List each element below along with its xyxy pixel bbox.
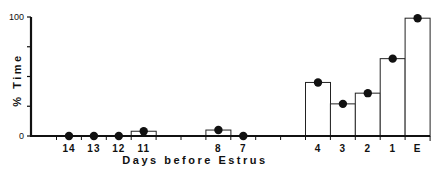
data-point: [65, 132, 73, 140]
y-axis-title: % Time: [11, 53, 23, 106]
x-tick-label: 13: [87, 143, 100, 154]
chart-container: 0100 14131211874321E % Time Days before …: [0, 0, 436, 172]
x-tick-label: 8: [215, 143, 222, 154]
data-point: [413, 14, 421, 22]
data-point: [90, 132, 98, 140]
data-point: [214, 126, 222, 134]
bar-chart: 0100 14131211874321E % Time Days before …: [0, 0, 436, 172]
x-tick-label: 7: [240, 143, 247, 154]
bar: [355, 93, 380, 136]
bar: [405, 18, 430, 136]
x-tick-label: 2: [365, 143, 372, 154]
data-point: [115, 132, 123, 140]
data-point: [314, 78, 322, 86]
x-tick-label: 3: [340, 143, 347, 154]
y-tick-label: 100: [9, 12, 24, 22]
y-tick-label: 0: [19, 131, 24, 141]
bar: [330, 104, 355, 136]
data-point: [339, 100, 347, 108]
data-point: [389, 54, 397, 62]
x-tick-label: 1: [389, 143, 396, 154]
data-point: [239, 132, 247, 140]
x-tick-label: E: [414, 143, 422, 154]
x-tick-label: 4: [315, 143, 322, 154]
data-point: [364, 89, 372, 97]
x-tick-label: 12: [112, 143, 125, 154]
x-tick-label: 11: [137, 143, 150, 154]
bar: [380, 59, 405, 136]
x-axis-title: Days before Estrus: [122, 154, 267, 166]
x-tick-label: 14: [62, 143, 75, 154]
bar: [306, 82, 331, 136]
bars-group: [131, 18, 430, 136]
data-point: [140, 127, 148, 135]
